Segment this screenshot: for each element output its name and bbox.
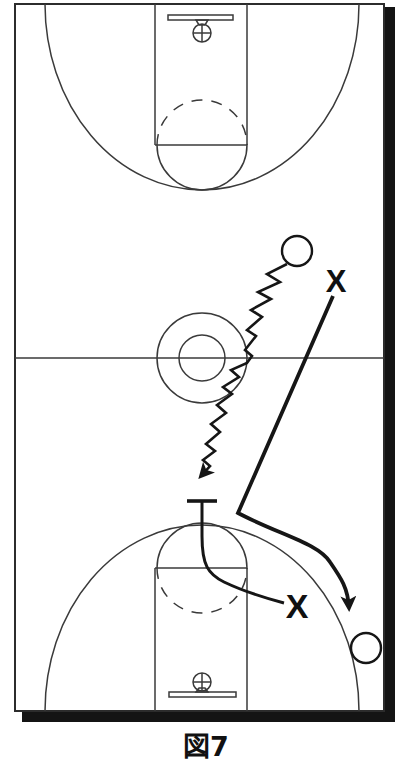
figure-caption: 図7: [183, 731, 229, 761]
figure: X X 図7: [0, 0, 397, 761]
court-diagram: X X 図7: [0, 0, 397, 761]
rim-top: [193, 24, 211, 42]
player-x-bottom: X: [286, 587, 309, 625]
player-x-top: X: [326, 264, 347, 299]
rim-bottom: [193, 673, 211, 691]
